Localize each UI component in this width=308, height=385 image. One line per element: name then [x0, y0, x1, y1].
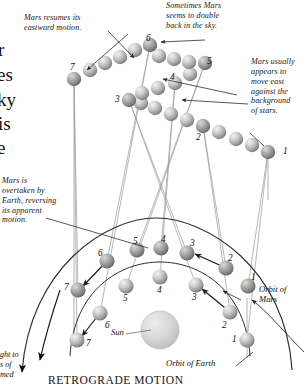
annotation-overtaken: Mars is overtaken by Earth, reversing it…	[2, 176, 56, 225]
mars-marker-7: 7	[64, 282, 69, 292]
edge-fragment-3: is	[0, 114, 11, 133]
mars-marker-5: 5	[133, 236, 138, 246]
edge-fragment-4: e	[0, 138, 5, 157]
edge-bottom-fragment-0: ght to	[0, 350, 19, 360]
annotation-mars-resumes: Mars resumes its eastward motion.	[24, 13, 82, 33]
sky-marker-7: 7	[70, 62, 75, 72]
edge-fragment-1: es	[0, 65, 13, 84]
earth-marker-6: 6	[105, 320, 110, 330]
sight-lines-group	[74, 45, 268, 340]
label-sun: Sun	[111, 327, 124, 337]
sky-marker-6: 6	[146, 33, 151, 43]
leader-double-back	[161, 40, 205, 42]
earth-marker-5: 5	[123, 293, 128, 303]
label-orbit-mars: Orbit of Mars	[259, 284, 305, 304]
sky-marker-1: 1	[283, 146, 288, 156]
sky-marker-3: 3	[115, 94, 120, 104]
sky-marker-5: 5	[207, 56, 212, 66]
mars-marker-6: 6	[98, 248, 103, 258]
mars-marker-2: 2	[228, 253, 233, 263]
leader-move-east-a	[182, 100, 248, 104]
earth-marker-7: 7	[86, 338, 91, 348]
earth-marker-1: 1	[232, 334, 237, 344]
mars-marker-4: 4	[161, 234, 166, 244]
sun-body	[141, 311, 179, 349]
mars-marker-3: 3	[190, 238, 195, 248]
annotation-double-back: Sometimes Mars seems to double back in t…	[166, 1, 221, 31]
sky-path-spheres	[67, 38, 275, 159]
edge-fragment-0: r	[0, 40, 4, 59]
earth-marker-3: 3	[192, 292, 197, 302]
sky-marker-4: 4	[170, 72, 175, 82]
annotation-move-east: Mars usually appears to move east agains…	[251, 57, 295, 116]
edge-bottom-fragment-1: s of	[0, 360, 11, 370]
edge-bottom-fragment-2: med	[0, 370, 13, 380]
retrograde-descent-arrow	[40, 290, 60, 360]
label-orbit-earth: Orbit of Earth	[166, 358, 215, 368]
retrograde-motion-figure: 1 2 3 4 5 6 7 1 2 3 4 5 6 7 1 2 3 4 5 6 …	[0, 0, 308, 385]
leader-orbit-earth	[236, 352, 253, 366]
figure-caption: RETROGRADE MOTION	[48, 374, 184, 385]
earth-marker-4: 4	[157, 285, 162, 295]
sky-marker-2: 2	[196, 132, 201, 142]
leader-orbit-mars-curve	[252, 300, 304, 352]
mars-marker-1: 1	[251, 272, 256, 282]
earth-marker-2: 2	[222, 320, 227, 330]
edge-fragment-2: ky	[0, 90, 16, 109]
